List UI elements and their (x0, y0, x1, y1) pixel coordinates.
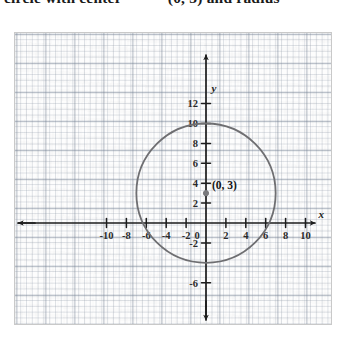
x-tick-label: -8 (122, 230, 131, 241)
x-tick-label: 4 (243, 230, 249, 241)
y-tick-label: 4 (193, 178, 199, 189)
x-tick-label: 10 (300, 230, 311, 241)
heading-before: circle with center (4, 0, 122, 6)
heading-after: and radius (207, 0, 280, 6)
graph-panel: -10-8-6-4-20246810-6-224681012 (0, 3)xy (14, 32, 332, 325)
coordinate-plane: -10-8-6-4-20246810-6-224681012 (0, 3)xy (15, 33, 332, 325)
axis-lines (18, 55, 315, 320)
x-tick-label: -4 (162, 230, 171, 241)
y-axis-label: y (209, 82, 216, 94)
x-tick-label: 2 (223, 230, 228, 241)
y-tick-label: 2 (193, 198, 198, 209)
x-tick-label: -6 (142, 230, 151, 241)
heading-text: circle with center(0, 3) and radius (4, 0, 344, 7)
y-tick-label: -2 (189, 238, 198, 249)
center-point-marker (203, 191, 208, 196)
point-layer (203, 191, 208, 196)
x-tick-label: 8 (283, 230, 288, 241)
y-tick-label: -6 (189, 278, 198, 289)
y-tick-label: 6 (193, 158, 198, 169)
cropped-heading: circle with center(0, 3) and radius (0, 0, 346, 14)
x-tick-label: -10 (100, 230, 114, 241)
y-tick-label: 12 (188, 98, 199, 109)
x-axis-label: x (317, 208, 324, 220)
annotation-layer: (0, 3)xy (209, 82, 324, 220)
heading-center: (0, 3) (168, 0, 203, 6)
y-tick-label: 8 (193, 138, 198, 149)
point-annotation: (0, 3) (212, 179, 237, 192)
